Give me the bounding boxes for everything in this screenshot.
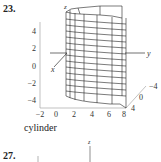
svg-text:4: 4 xyxy=(131,104,135,113)
figure-caption: cylinder xyxy=(24,122,57,133)
svg-text:6: 6 xyxy=(107,110,111,119)
svg-text:4: 4 xyxy=(32,27,36,36)
svg-text:8: 8 xyxy=(122,110,126,119)
problem-number-27: 27. xyxy=(3,150,16,161)
cylinder-plot: 4 2 0 −2 −4 −2 0 2 4 6 8 −4 0 4 x y z xyxy=(0,0,161,162)
axes xyxy=(50,53,145,67)
y-axis-label: y xyxy=(146,49,151,58)
svg-text:0: 0 xyxy=(32,62,36,71)
svg-text:−4: −4 xyxy=(27,96,36,105)
svg-text:4: 4 xyxy=(90,110,94,119)
y-axis-ticks: −4 0 4 xyxy=(131,82,158,113)
svg-text:0: 0 xyxy=(139,93,143,102)
x-axis-ticks: −2 0 2 4 6 8 xyxy=(36,110,126,119)
svg-text:0: 0 xyxy=(54,110,58,119)
x-axis-label: x xyxy=(50,65,55,74)
svg-text:−2: −2 xyxy=(36,110,45,119)
svg-text:2: 2 xyxy=(72,110,76,119)
z-axis-label: z xyxy=(63,3,67,11)
svg-text:2: 2 xyxy=(32,44,36,53)
cylinder-mesh xyxy=(66,6,126,108)
z-axis-ticks: 4 2 0 −2 −4 xyxy=(27,27,36,105)
svg-text:−4: −4 xyxy=(149,82,158,91)
next-figure-z-label: z xyxy=(87,139,91,145)
svg-text:−2: −2 xyxy=(27,79,36,88)
